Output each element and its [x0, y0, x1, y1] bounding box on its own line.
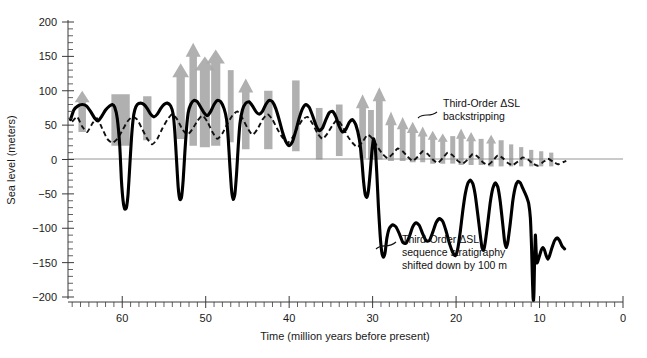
sequence-stratigraphy-annotation-line-1: Third-Order ΔSL: [402, 233, 479, 245]
x-tick-label-40: 40: [283, 312, 295, 324]
sequence-stratigraphy-annotation-line-3: shifted down by 100 m: [402, 259, 507, 271]
y-axis-ticks: [62, 22, 74, 297]
y-tick-label-150: 150: [39, 50, 57, 62]
x-tick-label-60: 60: [116, 312, 128, 324]
y-tick-label-100: 100: [39, 85, 57, 97]
sea-level-chart-figure: 200150100500−50−100−150−200 Sea level (m…: [0, 0, 647, 358]
y-tick-label-50: 50: [45, 119, 57, 131]
gray-range-bar-11: [316, 108, 323, 160]
chart-canvas: 200150100500−50−100−150−200 Sea level (m…: [0, 0, 647, 358]
backstripping-annotation: Third-Order ΔSL backstripping: [418, 97, 520, 122]
y-tick-label--150: −150: [32, 257, 57, 269]
y-tick-label--200: −200: [32, 291, 57, 303]
gray-range-bar-19: [418, 127, 428, 163]
gray-range-bar-24: [466, 132, 476, 165]
gray-range-bar-22: [450, 136, 455, 164]
backstripping-leader-line: [418, 112, 437, 118]
backstripping-annotation-line-1: Third-Order ΔSL: [443, 97, 520, 109]
x-tick-label-10: 10: [533, 312, 545, 324]
x-tick-label-0: 0: [620, 312, 626, 324]
y-tick-label-0: 0: [51, 154, 57, 166]
gray-range-bar-27: [499, 140, 504, 166]
x-tick-label-20: 20: [450, 312, 462, 324]
gray-range-bar-16: [385, 111, 397, 161]
gray-range-bar-30: [529, 150, 533, 167]
y-axis-title: Sea level (meters): [5, 115, 17, 204]
sequence-stratigraphy-annotation: Third-Order ΔSL sequence stratigraphy sh…: [376, 233, 507, 271]
x-axis-tick-labels: 6050403020100: [116, 312, 626, 324]
y-axis: 200150100500−50−100−150−200 Sea level (m…: [5, 16, 74, 303]
x-tick-label-50: 50: [200, 312, 212, 324]
x-axis-title: Time (million years before present): [260, 330, 430, 342]
y-tick-label--100: −100: [32, 222, 57, 234]
x-tick-label-30: 30: [366, 312, 378, 324]
sequence-stratigraphy-annotation-line-2: sequence stratigraphy: [402, 246, 506, 258]
x-axis: 6050403020100 Time (million years before…: [68, 296, 626, 342]
y-axis-tick-labels: 200150100500−50−100−150−200: [32, 16, 57, 303]
y-tick-label-200: 200: [39, 16, 57, 28]
gray-range-bar-17: [397, 117, 409, 161]
gray-range-bar-13: [356, 94, 369, 158]
backstripping-annotation-line-2: backstripping: [443, 110, 505, 122]
y-tick-label--50: −50: [38, 188, 57, 200]
gray-range-bar-18: [407, 122, 419, 163]
